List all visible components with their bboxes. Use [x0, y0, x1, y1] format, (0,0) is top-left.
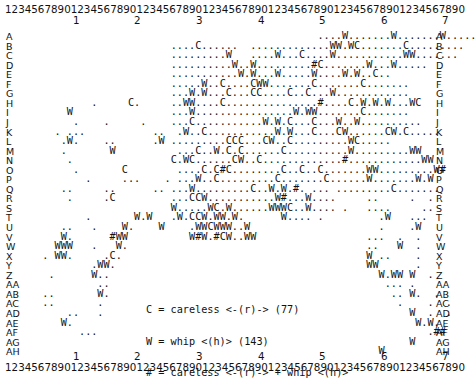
tens-mark: 4	[258, 14, 265, 26]
tens-mark: 6	[381, 14, 388, 26]
tens-mark: 3	[196, 14, 203, 26]
bottom-column-ruler: 1234567890123456789012345678901234567890…	[5, 361, 465, 373]
tens-mark: 2	[134, 14, 141, 26]
legend-careless: C = careless <-(r)-> (77)	[146, 305, 348, 316]
tens-mark: 5	[319, 14, 326, 26]
row-label-left: AH	[6, 346, 24, 357]
legend-whip: W = whip <(h)> (143)	[146, 337, 348, 348]
tens-mark: 7	[442, 14, 449, 26]
tens-mark: 1	[73, 14, 80, 26]
